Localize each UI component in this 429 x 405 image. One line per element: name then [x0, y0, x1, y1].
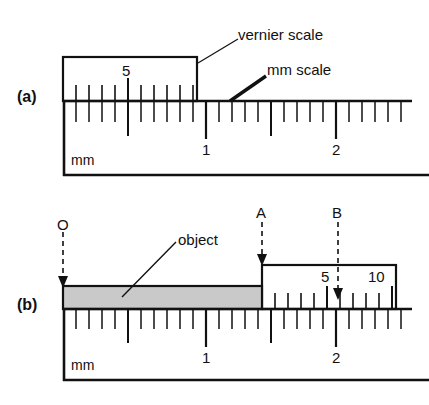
marker-a-label: A	[256, 204, 266, 221]
figure-svg	[0, 0, 429, 405]
panel-a-label: (a)	[17, 88, 37, 106]
vernier-number-5-a: 5	[122, 62, 130, 79]
main-scale-number-1-a: 1	[202, 141, 210, 158]
object-annotation: object	[178, 231, 218, 248]
measured-object-rect	[63, 286, 262, 309]
panel-b-label: (b)	[17, 296, 37, 314]
vernier-scale-annotation: vernier scale	[238, 26, 323, 43]
panel-a-group	[63, 39, 429, 176]
marker-b-arrow	[333, 222, 343, 300]
mm-unit-label-a: mm	[71, 152, 94, 168]
vernier-number-10-b: 10	[368, 268, 385, 285]
main-scale-number-2-b: 2	[332, 349, 340, 366]
marker-b-label: B	[332, 204, 342, 221]
mm-scale-annotation: mm scale	[267, 61, 331, 78]
marker-o-label: O	[57, 216, 69, 233]
mm-ticks-a	[76, 101, 401, 139]
main-scale-number-2-a: 2	[332, 141, 340, 158]
mm-ticks-b	[76, 309, 401, 347]
vernier-scale-leader-a	[198, 39, 238, 63]
panel-b-group	[58, 222, 429, 381]
vernier-number-5-b: 5	[321, 268, 329, 285]
mm-scale-leader-a	[230, 76, 266, 101]
main-scale-number-1-b: 1	[202, 349, 210, 366]
marker-o-arrow	[58, 232, 68, 288]
mm-unit-label-b: mm	[71, 357, 94, 373]
vernier-caliper-figure: (a) vernier scale mm scale 5 1 2 mm (b) …	[0, 0, 429, 405]
marker-a-arrow	[257, 222, 267, 266]
